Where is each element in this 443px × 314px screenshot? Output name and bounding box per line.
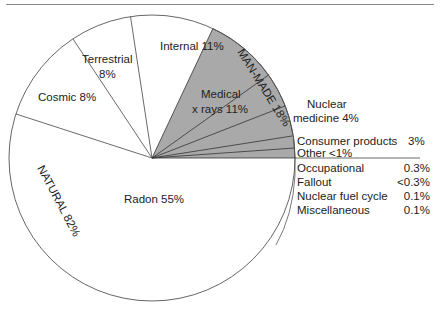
label-radon: Radon 55% xyxy=(124,193,184,205)
bracket-line xyxy=(276,158,295,245)
label-nuclear-medicine-line1: Nuclear xyxy=(307,98,347,110)
natural-dividers xyxy=(16,17,152,158)
breakdown-value: 0.1% xyxy=(380,203,430,217)
label-nuclear-medicine-line2: medicine 4% xyxy=(293,112,359,124)
breakdown-label: Occupational xyxy=(297,161,364,175)
breakdown-value: 0.3% xyxy=(380,161,430,175)
label-internal: Internal 11% xyxy=(160,40,224,52)
label-medical-line1: Medical xyxy=(201,88,241,100)
label-medical-line2: x rays 11% xyxy=(192,103,248,115)
label-consumer-products: Consumer products xyxy=(297,135,398,147)
label-consumer-products-value: 3% xyxy=(408,135,425,147)
label-terrestrial-line1: Terrestrial xyxy=(82,53,132,65)
breakdown-label: Nuclear fuel cycle xyxy=(297,189,388,203)
breakdown-label: Fallout xyxy=(297,175,332,189)
label-natural: NATURAL 82% xyxy=(35,163,83,238)
breakdown-value: 0.1% xyxy=(380,189,430,203)
label-cosmic: Cosmic 8% xyxy=(38,91,96,103)
pie-chart: Internal 11% Terrestrial 8% Cosmic 8% Ra… xyxy=(0,0,443,314)
label-other: Other <1% xyxy=(297,147,352,159)
breakdown-label: Miscellaneous xyxy=(297,203,370,217)
breakdown-value: <0.3% xyxy=(380,175,430,189)
label-terrestrial-line2: 8% xyxy=(99,68,116,80)
